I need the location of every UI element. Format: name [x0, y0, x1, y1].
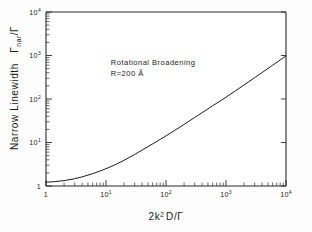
- tick-label-exponent: 4: [38, 7, 41, 13]
- x-tick-label: 101: [100, 189, 112, 199]
- y-tick-label: 103: [29, 50, 41, 60]
- y-tick-label: 104: [29, 7, 41, 17]
- x-axis-title: 2k2D/Γ: [149, 211, 184, 222]
- x-axis-title-tail: D/Γ: [166, 211, 183, 222]
- tick-label-exponent: 4: [289, 189, 292, 195]
- tick-label-exponent: 3: [38, 50, 41, 56]
- y-axis-tick-labels: 1101102103104: [29, 7, 41, 191]
- tick-label-base: 10: [29, 95, 38, 104]
- tick-label-exponent: 2: [169, 189, 172, 195]
- x-axis-title-prefix: 2k: [149, 211, 161, 222]
- tick-label-exponent: 1: [109, 189, 112, 195]
- x-tick-label: 103: [220, 189, 232, 199]
- tick-label-base: 10: [100, 190, 109, 199]
- tick-label-exponent: 1: [38, 137, 41, 143]
- tick-label-base: 10: [280, 190, 289, 199]
- log-log-chart: 1101102103104 1101102103104 Rotational B…: [0, 0, 312, 232]
- y-tick-label: 102: [29, 94, 41, 104]
- y-axis-title-words: Narrow Linewidth: [9, 63, 20, 150]
- annotation-line-2: R=200 Å: [111, 69, 144, 78]
- tick-label-base: 10: [29, 138, 38, 147]
- y-axis-title-subscript: nar: [15, 35, 22, 47]
- tick-label-base: 10: [160, 190, 169, 199]
- tick-label-exponent: 2: [38, 94, 41, 100]
- figure-container: 1101102103104 1101102103104 Rotational B…: [0, 0, 312, 232]
- plot-area-background: [46, 12, 286, 186]
- y-axis-title: Narrow Linewidth Γnar/Γ: [9, 26, 22, 150]
- tick-label-base: 1: [44, 190, 48, 199]
- annotation-line-1: Rotational Broadening: [111, 58, 196, 67]
- tick-label-exponent: 3: [229, 189, 232, 195]
- tick-label-base: 10: [220, 190, 229, 199]
- x-tick-label: 1: [44, 190, 48, 199]
- tick-label-base: 1: [37, 182, 41, 191]
- tick-label-base: 10: [29, 8, 38, 17]
- x-tick-label: 104: [280, 189, 292, 199]
- x-tick-label: 102: [160, 189, 172, 199]
- y-tick-label: 101: [29, 137, 41, 147]
- y-axis-title-tail: /Γ: [9, 26, 20, 36]
- x-axis-title-exponent: 2: [160, 211, 164, 218]
- x-axis-tick-labels: 1101102103104: [44, 189, 292, 199]
- y-tick-label: 1: [37, 182, 41, 191]
- tick-label-base: 10: [29, 51, 38, 60]
